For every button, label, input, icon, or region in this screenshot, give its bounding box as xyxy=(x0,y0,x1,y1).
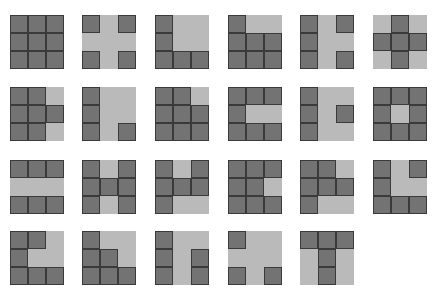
filled-cell xyxy=(246,33,264,51)
filled-cell xyxy=(246,123,264,141)
filled-cell xyxy=(300,87,318,105)
filled-cell xyxy=(46,267,64,285)
filled-cell xyxy=(228,267,246,285)
filled-cell xyxy=(82,15,100,33)
filled-cell xyxy=(173,51,191,69)
filled-cell xyxy=(391,87,409,105)
filled-cell xyxy=(318,231,336,249)
pattern-grid xyxy=(10,15,64,69)
filled-cell xyxy=(155,33,173,51)
filled-cell xyxy=(300,105,318,123)
pattern-grid xyxy=(155,160,209,214)
filled-cell xyxy=(173,87,191,105)
filled-cell xyxy=(46,196,64,214)
filled-cell xyxy=(264,196,282,214)
filled-cell xyxy=(318,267,336,285)
filled-cell xyxy=(391,123,409,141)
filled-cell xyxy=(10,123,28,141)
filled-cell xyxy=(409,33,427,51)
pattern-grid xyxy=(300,160,354,214)
filled-cell xyxy=(391,196,409,214)
filled-cell xyxy=(300,178,318,196)
filled-cell xyxy=(28,160,46,178)
filled-cell xyxy=(155,249,173,267)
filled-cell xyxy=(82,87,100,105)
filled-cell xyxy=(264,123,282,141)
pattern-grid xyxy=(155,15,209,69)
filled-cell xyxy=(82,51,100,69)
filled-cell xyxy=(46,105,64,123)
filled-cell xyxy=(264,267,282,285)
filled-cell xyxy=(82,249,100,267)
filled-cell xyxy=(46,160,64,178)
filled-cell xyxy=(300,123,318,141)
filled-cell xyxy=(228,15,246,33)
filled-cell xyxy=(28,196,46,214)
filled-cell xyxy=(10,87,28,105)
filled-cell xyxy=(391,51,409,69)
filled-cell xyxy=(155,160,173,178)
pattern-grid xyxy=(82,87,136,141)
filled-cell xyxy=(191,123,209,141)
filled-cell xyxy=(28,267,46,285)
filled-cell xyxy=(155,105,173,123)
filled-cell xyxy=(409,123,427,141)
filled-cell xyxy=(118,160,136,178)
filled-cell xyxy=(409,160,427,178)
pattern-grid xyxy=(228,87,282,141)
filled-cell xyxy=(264,87,282,105)
filled-cell xyxy=(318,178,336,196)
filled-cell xyxy=(10,51,28,69)
filled-cell xyxy=(82,196,100,214)
filled-cell xyxy=(300,15,318,33)
pattern-grid xyxy=(155,87,209,141)
pattern-grid xyxy=(228,231,282,285)
filled-cell xyxy=(46,33,64,51)
filled-cell xyxy=(336,105,354,123)
filled-cell xyxy=(155,196,173,214)
filled-cell xyxy=(100,267,118,285)
filled-cell xyxy=(228,178,246,196)
filled-cell xyxy=(118,178,136,196)
filled-cell xyxy=(10,267,28,285)
filled-cell xyxy=(28,33,46,51)
filled-cell xyxy=(336,231,354,249)
filled-cell xyxy=(82,160,100,178)
filled-cell xyxy=(155,51,173,69)
filled-cell xyxy=(191,267,209,285)
filled-cell xyxy=(118,267,136,285)
pattern-grid xyxy=(300,87,354,141)
pattern-grid xyxy=(82,160,136,214)
filled-cell xyxy=(246,87,264,105)
filled-cell xyxy=(191,51,209,69)
filled-cell xyxy=(82,231,100,249)
filled-cell xyxy=(373,160,391,178)
filled-cell xyxy=(28,87,46,105)
filled-cell xyxy=(10,249,28,267)
filled-cell xyxy=(10,33,28,51)
filled-cell xyxy=(228,105,246,123)
filled-cell xyxy=(82,123,100,141)
filled-cell xyxy=(373,123,391,141)
filled-cell xyxy=(228,51,246,69)
filled-cell xyxy=(409,105,427,123)
pattern-grid xyxy=(228,15,282,69)
filled-cell xyxy=(28,231,46,249)
filled-cell xyxy=(318,160,336,178)
filled-cell xyxy=(373,87,391,105)
filled-cell xyxy=(391,15,409,33)
filled-cell xyxy=(155,178,173,196)
filled-cell xyxy=(191,178,209,196)
filled-cell xyxy=(391,33,409,51)
pattern-grid xyxy=(10,160,64,214)
pattern-grid xyxy=(82,15,136,69)
pattern-grid xyxy=(373,15,427,69)
filled-cell xyxy=(46,15,64,33)
filled-cell xyxy=(10,105,28,123)
filled-cell xyxy=(173,123,191,141)
pattern-grid xyxy=(228,160,282,214)
filled-cell xyxy=(118,196,136,214)
filled-cell xyxy=(246,196,264,214)
filled-cell xyxy=(10,160,28,178)
pattern-grid xyxy=(155,231,209,285)
